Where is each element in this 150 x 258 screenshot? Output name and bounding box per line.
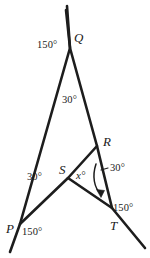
- angle-label-p-interior: 30°: [27, 172, 42, 183]
- angle-label-q-interior: 30°: [62, 95, 77, 106]
- angle-label-s-unknown: x°: [76, 170, 85, 181]
- point-label-p: P: [6, 222, 14, 235]
- angle-label-p-exterior: 150°: [22, 227, 42, 238]
- point-label-r: R: [103, 135, 111, 148]
- geometry-diagram: 150° Q 30° R S x° 30° 30° P 150° 150° T: [0, 0, 150, 258]
- point-label-q: Q: [74, 31, 83, 44]
- curved-arrow-head-icon: [97, 190, 105, 198]
- angle-label-r-exterior: 30°: [110, 163, 125, 174]
- point-label-s: S: [59, 163, 66, 176]
- point-label-t: T: [110, 219, 117, 232]
- angle-label-t-exterior: 150°: [113, 203, 133, 214]
- angle-label-q-exterior: 150°: [37, 40, 57, 51]
